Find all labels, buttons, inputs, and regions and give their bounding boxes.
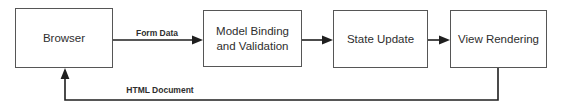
edge-label-html-document: HTML Document (120, 85, 200, 95)
node-view-rendering-label: View Rendering (458, 32, 539, 47)
node-view-rendering: View Rendering (450, 10, 547, 68)
edge-binding-to-state-arrowhead-icon (322, 36, 333, 45)
flow-diagram: Browser Model Binding and Validation Sta… (0, 0, 565, 110)
node-state-update-label: State Update (347, 32, 414, 47)
edge-state-to-view-arrowhead-icon (439, 36, 450, 45)
node-model-binding-label: Model Binding and Validation (210, 24, 295, 54)
edge-label-form-data: Form Data (113, 28, 201, 38)
node-model-binding: Model Binding and Validation (203, 10, 302, 67)
node-state-update: State Update (333, 10, 428, 68)
node-browser: Browser (15, 8, 113, 68)
edge-html-document-arrowhead-icon (61, 68, 70, 79)
node-browser-label: Browser (43, 31, 85, 46)
edge-html-document-line (65, 68, 498, 100)
